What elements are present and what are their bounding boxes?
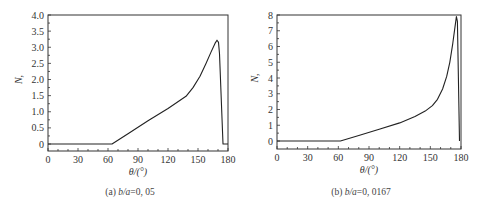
y-tick-label: 3.5	[32, 26, 45, 37]
caption-ratio: b/a	[118, 187, 130, 197]
x-axis-label: θ/(°)	[129, 166, 148, 178]
data-line	[48, 40, 228, 144]
caption-prefix: (b)	[331, 187, 344, 198]
y-tick-label: 1	[268, 120, 273, 131]
x-tick-label: 60	[333, 152, 343, 163]
x-tick-label: 90	[133, 154, 143, 165]
y-tick-label: 3	[268, 88, 273, 99]
x-tick-label: 0	[275, 152, 280, 163]
y-tick-label: 7	[268, 25, 273, 36]
figure: 030609012015018000.51.01.52.02.53.03.54.…	[0, 0, 486, 211]
y-tick-label: 0	[268, 136, 273, 147]
caption-prefix: (a)	[105, 187, 118, 198]
y-tick-label: 0	[39, 139, 44, 150]
y-tick-label: 4.0	[32, 10, 45, 21]
y-tick-label: 6	[268, 41, 273, 52]
caption-value: =0, 05	[130, 187, 155, 197]
x-tick-label: 30	[303, 152, 313, 163]
y-tick-label: 2	[268, 104, 273, 115]
x-tick-label: 150	[191, 154, 206, 165]
x-tick-label: 150	[423, 152, 438, 163]
x-tick-label: 30	[73, 154, 83, 165]
y-tick-label: 0.5	[32, 122, 45, 133]
y-tick-label: 2.0	[32, 74, 45, 85]
figure-caption: (b) b/a=0, 0167	[331, 187, 391, 198]
plot-frame	[277, 15, 461, 149]
data-line	[277, 17, 460, 141]
caption-ratio: b/a	[345, 187, 357, 197]
x-tick-label: 180	[454, 152, 469, 163]
y-tick-label: 1.5	[32, 90, 45, 101]
chart-panel-b: 0306090120150180012345678θ/(°)N,(b) b/a=…	[249, 10, 469, 199]
y-tick-label: 3.0	[32, 42, 45, 53]
x-tick-label: 90	[364, 152, 374, 163]
x-tick-label: 180	[221, 154, 236, 165]
x-tick-label: 120	[161, 154, 176, 165]
y-tick-label: 2.5	[32, 58, 45, 69]
chart-panel-a: 030609012015018000.51.01.52.02.53.03.54.…	[13, 10, 236, 199]
x-axis-label: θ/(°)	[360, 164, 379, 176]
x-tick-label: 60	[103, 154, 113, 165]
y-tick-label: 8	[268, 10, 273, 21]
y-axis-label: N,	[13, 75, 24, 85]
y-tick-label: 1.0	[32, 106, 45, 117]
y-axis-label: N,	[249, 73, 260, 83]
y-tick-label: 5	[268, 57, 273, 68]
y-tick-label: 4	[268, 73, 273, 84]
caption-value: =0, 0167	[357, 187, 391, 197]
plot-frame	[48, 15, 228, 151]
x-tick-label: 0	[46, 154, 51, 165]
x-tick-label: 120	[392, 152, 407, 163]
figure-caption: (a) b/a=0, 05	[105, 187, 155, 198]
